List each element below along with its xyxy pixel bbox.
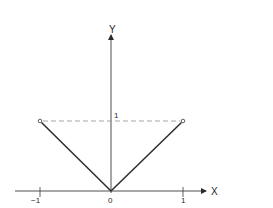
left-segment bbox=[42, 123, 112, 192]
y-tick-label-1: 1 bbox=[114, 111, 119, 120]
x-tick-label-1: 1 bbox=[181, 196, 186, 205]
plot-canvas: Y X 1 −1 0 1 bbox=[0, 0, 273, 208]
x-tick-label-0: 0 bbox=[108, 196, 113, 205]
x-tick-label-minus-1: −1 bbox=[31, 196, 41, 205]
open-circle-right bbox=[181, 119, 185, 123]
x-axis-label: X bbox=[211, 186, 218, 197]
right-segment bbox=[111, 123, 182, 192]
y-axis-label: Y bbox=[109, 24, 116, 35]
open-circle-left bbox=[38, 119, 42, 123]
